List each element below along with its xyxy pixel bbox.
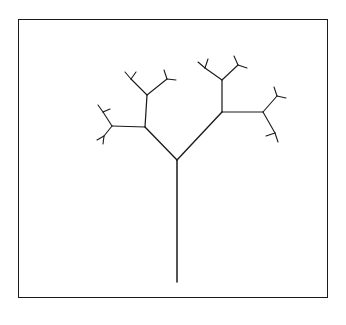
tree-twig-LRL-5 <box>131 72 136 79</box>
tree-branch-fork0-R <box>177 112 222 160</box>
tree-twig-LLR-3 <box>103 136 104 144</box>
tree-twig-RRL-13 <box>277 96 286 98</box>
tree-branch-LR-LRR <box>147 79 167 95</box>
tree-twig-RRR-14 <box>266 133 275 136</box>
tree-twig-LLL-0 <box>98 105 103 112</box>
tree-twig-LLR-2 <box>97 136 104 140</box>
tree-branch-L-LR <box>145 95 147 127</box>
tree-branch-group <box>97 56 286 282</box>
tree-branch-fork0-L <box>145 127 177 160</box>
tree-branch-RL-RLR <box>222 65 238 80</box>
tree-twig-RRL-12 <box>274 87 277 96</box>
tree-twig-RLL-8 <box>198 62 205 68</box>
tree-branch-LL-LLR <box>104 126 112 136</box>
tree-twig-RRR-15 <box>275 133 278 142</box>
tree-twig-RLR-11 <box>238 65 247 68</box>
tree-branch-L-LL <box>112 126 145 127</box>
fractal-tree-drawing <box>0 0 346 325</box>
tree-branch-RL-RLL <box>205 68 222 80</box>
tree-branch-LR-LRL <box>131 79 147 95</box>
tree-twig-LRR-7 <box>167 79 176 80</box>
tree-branch-RR-RRL <box>263 96 277 112</box>
tree-twig-LRR-6 <box>164 70 167 79</box>
figure-canvas <box>0 0 346 325</box>
tree-twig-RLR-10 <box>234 56 238 65</box>
tree-twig-RLL-9 <box>205 59 208 68</box>
tree-twig-LRL-4 <box>125 72 131 79</box>
tree-branch-LL-LLL <box>103 112 112 126</box>
tree-branch-RR-RRR <box>263 112 275 133</box>
tree-twig-LLL-1 <box>103 109 110 112</box>
